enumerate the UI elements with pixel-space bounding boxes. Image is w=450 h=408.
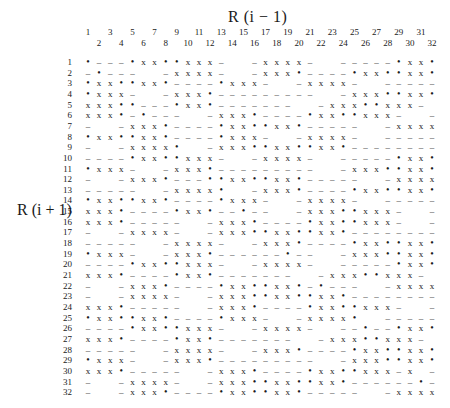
cell-x: x bbox=[360, 238, 371, 248]
cell-star: • bbox=[116, 110, 127, 120]
cell-x: x bbox=[182, 153, 193, 163]
cell-star: • bbox=[260, 121, 271, 131]
cell-x: x bbox=[205, 238, 216, 248]
cell-dash: – bbox=[382, 153, 393, 163]
cell-star: • bbox=[360, 100, 371, 110]
cell-dash: – bbox=[260, 366, 271, 376]
cell-star: • bbox=[293, 227, 304, 237]
cell-dash: – bbox=[416, 195, 427, 205]
cell-dash: – bbox=[94, 57, 105, 67]
cell-x: x bbox=[316, 227, 327, 237]
cell-x: x bbox=[83, 110, 94, 120]
cell-x: x bbox=[138, 323, 149, 333]
cell-x: x bbox=[404, 57, 415, 67]
cell-x: x bbox=[316, 132, 327, 142]
cell-dash: – bbox=[293, 89, 304, 99]
row-number: 18 bbox=[52, 238, 72, 248]
cell-x: x bbox=[194, 270, 205, 280]
cell-star: • bbox=[160, 323, 171, 333]
cell-x: x bbox=[316, 206, 327, 216]
cell-star: • bbox=[127, 132, 138, 142]
cell-dash: – bbox=[271, 110, 282, 120]
cell-dash: – bbox=[238, 355, 249, 365]
cell-dash: – bbox=[293, 302, 304, 312]
cell-dash: – bbox=[349, 377, 360, 387]
cell-star: • bbox=[338, 142, 349, 152]
cell-dash: – bbox=[271, 366, 282, 376]
cell-x: x bbox=[282, 174, 293, 184]
cell-star: • bbox=[160, 153, 171, 163]
row-number: 26 bbox=[52, 323, 72, 333]
cell-dash: – bbox=[249, 89, 260, 99]
cell-x: x bbox=[182, 334, 193, 344]
cell-star: • bbox=[338, 366, 349, 376]
cell-x: x bbox=[371, 366, 382, 376]
cell-dash: – bbox=[182, 121, 193, 131]
row-number: 23 bbox=[52, 291, 72, 301]
cell-x: x bbox=[127, 377, 138, 387]
column-number: 19 bbox=[278, 27, 298, 37]
cell-dash: – bbox=[171, 291, 182, 301]
cell-dash: – bbox=[416, 313, 427, 323]
cell-x: x bbox=[416, 185, 427, 195]
cell-star: • bbox=[427, 323, 438, 333]
cell-x: x bbox=[205, 185, 216, 195]
cell-star: • bbox=[127, 259, 138, 269]
cell-x: x bbox=[94, 100, 105, 110]
cell-star: • bbox=[349, 217, 360, 227]
cell-dash: – bbox=[83, 174, 94, 184]
cell-star: • bbox=[393, 185, 404, 195]
cell-dash: – bbox=[94, 259, 105, 269]
cell-x: x bbox=[271, 345, 282, 355]
cell-star: • bbox=[249, 366, 260, 376]
cell-x: x bbox=[360, 89, 371, 99]
row-number: 7 bbox=[52, 121, 72, 131]
cell-x: x bbox=[194, 89, 205, 99]
cell-dash: – bbox=[316, 174, 327, 184]
cell-x: x bbox=[227, 227, 238, 237]
cell-x: x bbox=[83, 100, 94, 110]
cell-x: x bbox=[238, 78, 249, 88]
cell-star: • bbox=[393, 355, 404, 365]
cell-x: x bbox=[194, 334, 205, 344]
cell-dash: – bbox=[338, 249, 349, 259]
cell-star: • bbox=[127, 100, 138, 110]
cell-x: x bbox=[327, 132, 338, 142]
row-number: 25 bbox=[52, 313, 72, 323]
cell-dash: – bbox=[216, 89, 227, 99]
cell-star: • bbox=[160, 78, 171, 88]
cell-x: x bbox=[149, 153, 160, 163]
cell-x: x bbox=[194, 249, 205, 259]
cell-dash: – bbox=[349, 387, 360, 397]
cell-dash: – bbox=[138, 334, 149, 344]
cell-star: • bbox=[171, 334, 182, 344]
cell-star: • bbox=[116, 195, 127, 205]
cell-dash: – bbox=[382, 174, 393, 184]
cell-star: • bbox=[349, 313, 360, 323]
cell-x: x bbox=[327, 195, 338, 205]
cell-x: x bbox=[282, 281, 293, 291]
row-number: 17 bbox=[52, 227, 72, 237]
cell-dash: – bbox=[116, 57, 127, 67]
cell-dash: – bbox=[305, 164, 316, 174]
cell-star: • bbox=[205, 164, 216, 174]
cell-dash: – bbox=[404, 313, 415, 323]
cell-x: x bbox=[271, 142, 282, 152]
cell-star: • bbox=[360, 270, 371, 280]
row-number: 10 bbox=[52, 153, 72, 163]
cell-star: • bbox=[260, 377, 271, 387]
cell-star: • bbox=[216, 281, 227, 291]
cell-x: x bbox=[227, 78, 238, 88]
cell-dash: – bbox=[138, 217, 149, 227]
cell-star: • bbox=[160, 174, 171, 184]
cell-dash: – bbox=[305, 259, 316, 269]
cell-dash: – bbox=[393, 217, 404, 227]
row-number: 11 bbox=[52, 164, 72, 174]
cell-dash: – bbox=[205, 121, 216, 131]
cell-x: x bbox=[393, 281, 404, 291]
cell-dash: – bbox=[83, 345, 94, 355]
cell-star: • bbox=[427, 185, 438, 195]
cell-x: x bbox=[416, 57, 427, 67]
cell-dash: – bbox=[393, 302, 404, 312]
cell-dash: – bbox=[116, 281, 127, 291]
